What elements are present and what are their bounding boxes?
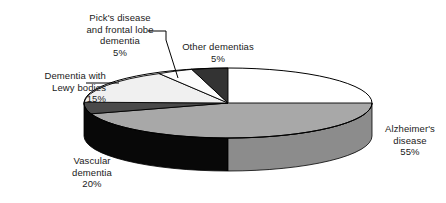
slice-label-line: Other dementias [166,41,270,53]
pie-top-faces [84,68,372,138]
slice-label-line: Alzheimer's [376,123,444,135]
slice-label-line: Pick's disease [58,12,182,24]
slice-label-alzheimers-disease: Alzheimer's disease 55% [376,123,444,158]
slice-label-vascular-dementia: Vascular dementia 20% [42,155,142,190]
slice-label-line: Lewy bodies [6,82,106,94]
pie-chart-figure: Pick's disease and frontal lobe dementia… [0,0,446,203]
slice-label-line: Dementia with [6,70,106,82]
slice-label-line: dementia [58,35,182,47]
slice-label-line: dementia [42,167,142,179]
slice-value-vascular-dementia: 20% [42,178,142,190]
slice-value-alzheimers-disease: 55% [376,146,444,158]
slice-label-picks-disease-and-frontal-lobe-dementia: Pick's disease and frontal lobe dementia… [58,12,182,58]
slice-value-other-dementias: 5% [166,53,270,65]
slice-label-other-dementias: Other dementias 5% [166,41,270,64]
slice-value-dementia-with-lewy-bodies: 15% [6,93,106,105]
slice-label-line: Vascular [42,155,142,167]
slice-label-line: and frontal lobe [58,24,182,36]
slice-label-dementia-with-lewy-bodies: Dementia with Lewy bodies 15% [6,70,106,105]
slice-label-line: disease [376,135,444,147]
slice-value-picks-disease-and-frontal-lobe-dementia: 5% [58,47,182,59]
